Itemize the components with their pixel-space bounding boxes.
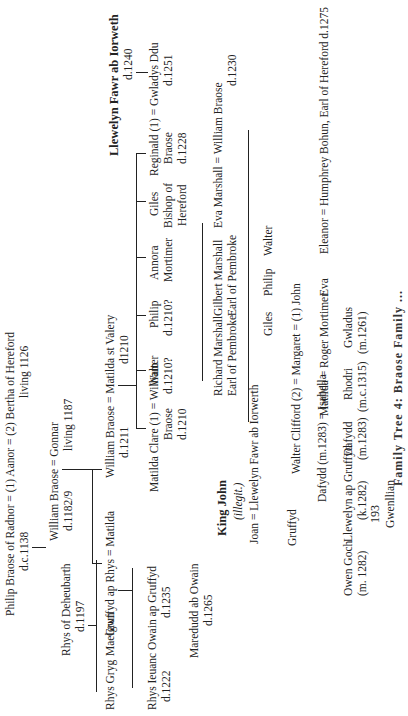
dafydd: Dafydd xyxy=(342,422,355,457)
connector xyxy=(118,590,132,591)
gilbert-earl: Earl of Pembroke xyxy=(226,235,239,316)
annora-mortimer: Mortimer xyxy=(162,238,175,282)
gilbert-marshall: Gilbert Marshall xyxy=(212,240,225,316)
rhodri-date: (m.c.1315) xyxy=(356,362,369,412)
connector xyxy=(202,223,203,381)
walter-1210-death: d.1210? xyxy=(162,357,175,394)
gwladus-date: (m.1261) xyxy=(356,312,369,354)
william-1210-death: d.1210 xyxy=(176,408,189,440)
gonnar-living: living 1187 xyxy=(62,399,75,451)
reginald-gwladys: Reginald (1) = Gwladys Ddu xyxy=(148,42,161,176)
rhodri: Rhodri xyxy=(342,368,355,400)
walter-clifford-margaret-john: Walter Clifford (2) = Margaret = (1) Joh… xyxy=(290,283,303,474)
philip-radnor-death: d.c.1138 xyxy=(18,532,31,571)
joan-llewelyn: Joan = Llewelyn Fawr ab Iorwerth xyxy=(248,385,261,544)
giles-son: Giles xyxy=(262,312,275,336)
gruffyd: Gruffyd xyxy=(286,509,299,546)
eva-marshall-william-braose: Eva Marshall = William Braose xyxy=(212,82,225,228)
maredudd-death: d.1265 xyxy=(202,594,215,626)
connector xyxy=(136,201,146,202)
william-braose-gonnar: William Braose = Gonnar xyxy=(48,422,61,541)
reginald-braose: Braose xyxy=(162,132,175,164)
rhys-deheubarth-death: d.1197 xyxy=(74,601,87,632)
giles-hereford: Hereford xyxy=(176,184,189,226)
owain-death: d.1235 xyxy=(160,586,173,618)
maredudd-ab-owain: Maredudd ab Owain xyxy=(188,563,201,658)
owen-goch-date: (m. 1282) xyxy=(356,551,369,596)
connector xyxy=(92,469,93,564)
connector xyxy=(136,428,146,429)
philip-braose-radnor: Philip Braose of Radnor = (1) Aanor = (2… xyxy=(4,332,17,616)
king-john-illegit: (illegit.) xyxy=(232,483,245,520)
maelgwn: Maelgwn xyxy=(104,613,117,656)
richard-marshall: Richard Marshall xyxy=(212,316,225,396)
dafydd-isabella: Dafydd (m.1283) = Isabella xyxy=(316,374,329,502)
richard-earl: Earl of Pembroke xyxy=(226,315,239,396)
rhys-ieuanc-death: d.1222 xyxy=(160,670,173,702)
reginald-death: d.1228 xyxy=(176,132,189,164)
eva: Eva xyxy=(318,278,331,296)
william-braose-matilda-st-valery: William Braose = Matilda st Valery xyxy=(104,315,117,478)
gwladus: Gwladus xyxy=(342,307,355,348)
dafydd-date: (m.1283) xyxy=(356,418,369,460)
philip-son: Philip xyxy=(262,269,275,296)
william-braose-label: Braose xyxy=(162,408,175,440)
rhys-of-deheubarth: Rhys of Deheubarth xyxy=(60,563,73,656)
figure-caption: Family Tree 4: Braose Family ... xyxy=(392,290,405,486)
llewelyn-ap-gruffyd: Llewelyn ap Gruffyd xyxy=(342,445,355,542)
llewelyn-fawr-death: d.1240 xyxy=(122,48,135,80)
family-tree-page: Philip Braose of Radnor = (1) Aanor = (2… xyxy=(0,0,408,716)
philip-1210: Philip xyxy=(148,301,161,328)
connector xyxy=(96,560,97,692)
connector xyxy=(136,72,148,73)
page-number: 193 xyxy=(369,505,382,523)
annora: Annora xyxy=(148,246,161,281)
william-1182-death: d.1182/9 xyxy=(62,491,75,531)
giles-bishop-of: Bishop of xyxy=(162,183,175,228)
owen-goch: Owen Goch xyxy=(342,541,355,596)
connector xyxy=(136,154,137,429)
connector xyxy=(136,257,146,258)
matilda-st-valery-death: d1210 xyxy=(118,335,131,364)
gwladys-death: d.1251 xyxy=(162,54,175,86)
connector xyxy=(248,130,249,422)
giles-bishop: Giles xyxy=(148,192,161,216)
connector xyxy=(32,547,46,548)
connector xyxy=(136,153,146,154)
connector xyxy=(132,568,133,688)
rhys-gryg: Rhys Gryg xyxy=(104,660,117,710)
owain-ap-gruffyd: Owain ap Gruffyd xyxy=(146,566,159,650)
llewelyn-fawr-ab-iorweth: Llewelyn Fawr ab Iorweth xyxy=(108,14,121,156)
connector xyxy=(88,625,96,626)
philip-1210-death: d.1210? xyxy=(162,299,175,336)
connector xyxy=(136,315,146,316)
connector xyxy=(92,469,102,470)
eleanor-humphrey-bohun: Eleanor = Humphrey Bohun, Earl of Herefo… xyxy=(318,7,331,254)
connector xyxy=(136,370,146,371)
william-1230-death: d.1230 xyxy=(226,54,239,86)
gwenllian: Gwenllian xyxy=(384,480,397,528)
rhys-ieuanc: Rhys Ieuanc xyxy=(146,653,159,710)
bertha-living: living 1126 xyxy=(18,346,31,398)
walter-1210: Walter xyxy=(148,356,161,386)
king-john: King John xyxy=(216,480,229,536)
william-1211-death: d.1211 xyxy=(118,427,131,458)
person-name: Philip Braose of Radnor = (1) Aanor = (2… xyxy=(4,332,16,616)
connector xyxy=(62,469,92,470)
connector xyxy=(118,385,136,386)
walter-son: Walter xyxy=(262,226,275,256)
